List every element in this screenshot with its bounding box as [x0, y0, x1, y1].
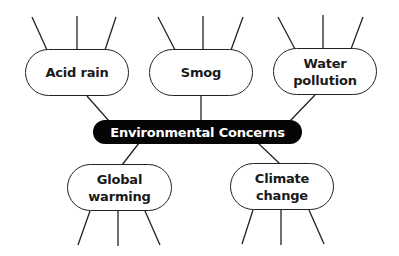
- node-water-pollution: Water pollution: [273, 48, 377, 95]
- node-global-warming: Global warming: [67, 164, 172, 211]
- node-climate-change: Climate change: [230, 163, 334, 210]
- node-smog: Smog: [149, 49, 253, 96]
- node-acid-rain: Acid rain: [25, 49, 129, 96]
- center-node-environmental-concerns: Environmental Concerns: [93, 120, 302, 144]
